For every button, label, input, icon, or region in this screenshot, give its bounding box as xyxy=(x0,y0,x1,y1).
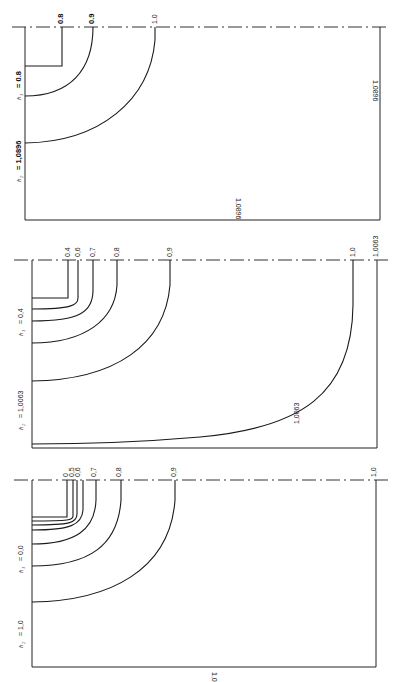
contour-label: 0.9 xyxy=(87,14,96,24)
contour-label: 1,0063 xyxy=(372,235,379,257)
contour-0-9 xyxy=(25,27,93,96)
svg-text:= 0,0: = 0,0 xyxy=(17,545,24,561)
boundary-label-bottom: 1,0 xyxy=(211,672,218,682)
contour-1-0 xyxy=(25,27,155,143)
contour-label: 0,6 xyxy=(74,467,81,477)
contour-label: 0,6 xyxy=(74,247,81,257)
contour-label: 0.4 xyxy=(64,247,71,257)
svg-text:1: 1 xyxy=(21,330,26,332)
svg-text:2: 2 xyxy=(19,175,24,178)
contour-label: 0,9 xyxy=(170,467,177,477)
contour-1-0 xyxy=(32,480,175,602)
contour-label: 0,9 xyxy=(166,247,173,257)
param-h1: h 1 = 0,4 xyxy=(17,308,26,336)
svg-text:2: 2 xyxy=(21,641,26,644)
param-h2: h 2 = 1,0 xyxy=(17,620,26,648)
panel-boundary xyxy=(25,27,380,220)
svg-text:= 0,4: = 0,4 xyxy=(17,308,24,324)
contour-label: 0,7 xyxy=(89,247,96,257)
contour-0-7 xyxy=(32,480,83,530)
panel-2: 0.4 0,6 0,7 0,8 0,9 1,0 1,0063 h 1 = 0,4… xyxy=(14,235,388,448)
contour-label: 1.0 xyxy=(151,14,158,24)
contour-1-0 xyxy=(32,260,353,444)
param-h1: h 1 = 0.8 xyxy=(14,71,24,100)
contour-label: 1,0 xyxy=(370,467,377,477)
contour-label: 0,8 xyxy=(113,247,120,257)
contour-0-8 xyxy=(32,480,96,544)
panel-1: 0.8 0.9 1.0 h 1 = 0.8 h 2 = 1,0896 1,089… xyxy=(12,14,388,220)
svg-text:1: 1 xyxy=(19,94,24,96)
contour-0-6 xyxy=(32,480,77,525)
svg-text:= 1,0063: = 1,0063 xyxy=(17,390,24,418)
contour-label: 0,7 xyxy=(90,467,97,477)
contour-0-6 xyxy=(32,260,78,309)
contour-0-7 xyxy=(32,260,93,321)
panel-boundary xyxy=(32,260,377,448)
contour-0-8 xyxy=(25,27,62,66)
panel-boundary xyxy=(32,480,376,667)
boundary-label-bottom: 1,0063 xyxy=(293,402,300,424)
svg-text:2: 2 xyxy=(21,423,26,426)
param-h2: h 2 = 1,0896 xyxy=(14,141,24,182)
param-h1: h 1 = 0,0 xyxy=(17,545,26,573)
svg-text:= 1,0: = 1,0 xyxy=(17,620,24,636)
contour-figure: 0.8 0.9 1.0 h 1 = 0.8 h 2 = 1,0896 1,089… xyxy=(0,0,404,682)
contour-label: 1,0 xyxy=(349,247,356,257)
contour-label: 0,8 xyxy=(115,467,122,477)
contour-label: 0.8 xyxy=(56,14,65,24)
svg-text:= 0.8: = 0.8 xyxy=(14,71,23,88)
boundary-label-right: 1,0896 xyxy=(372,80,379,102)
contour-0-8 xyxy=(32,260,117,343)
panel-3: 0 0,5 0,6 0,7 0,8 0,9 1,0 h 1 = 0,0 h 2 … xyxy=(14,467,392,682)
contour-0 xyxy=(32,480,67,517)
contour-0-4 xyxy=(32,260,68,298)
boundary-label-bottom: 1,0896 xyxy=(235,198,242,220)
svg-text:= 1,0896: = 1,0896 xyxy=(14,141,23,170)
svg-text:1: 1 xyxy=(21,567,26,569)
param-h2: h 2 = 1,0063 xyxy=(17,390,26,430)
